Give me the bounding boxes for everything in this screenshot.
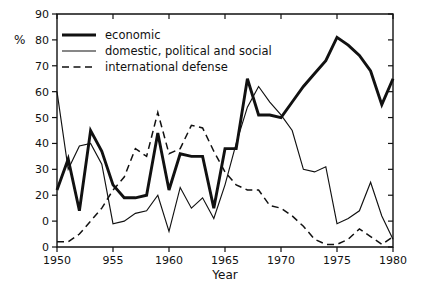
line-chart: 002030405060708090 195095519601965197019…	[0, 0, 422, 289]
y-axis-title: %	[14, 33, 25, 47]
x-axis-title: Year	[211, 268, 237, 282]
legend-label-international-defense: international defense	[105, 60, 228, 74]
series-line-international-defense	[57, 112, 393, 244]
y-tick-label: 90	[35, 8, 49, 21]
chart-container: 002030405060708090 195095519601965197019…	[0, 0, 422, 289]
y-tick-label: 0	[42, 215, 49, 228]
x-tick-label: 1975	[323, 254, 351, 267]
y-tick-label: 80	[35, 34, 49, 47]
legend-label-economic: economic	[105, 28, 160, 42]
y-tick-label: 40	[35, 137, 49, 150]
series-line-domestic-political-social	[57, 86, 393, 239]
y-tick-label: 50	[35, 112, 49, 125]
legend-label-domestic-political-social: domestic, political and social	[105, 44, 272, 58]
x-tick-label: 1970	[267, 254, 295, 267]
y-tick-label: 70	[35, 60, 49, 73]
y-tick-label: 30	[35, 163, 49, 176]
y-axis-tick-labels: 002030405060708090	[35, 8, 49, 254]
chart-legend: economic domestic, political and social …	[62, 28, 272, 74]
y-tick-label: 20	[35, 189, 49, 202]
x-tick-label: 1960	[155, 254, 183, 267]
y-tick-label: 0	[42, 241, 49, 254]
y-tick-label: 60	[35, 86, 49, 99]
x-tick-label: 1950	[43, 254, 71, 267]
x-tick-label: 1980	[379, 254, 407, 267]
x-tick-label: 955	[103, 254, 124, 267]
x-axis-tick-labels: 195095519601965197019751980	[43, 254, 407, 267]
x-tick-label: 1965	[211, 254, 239, 267]
